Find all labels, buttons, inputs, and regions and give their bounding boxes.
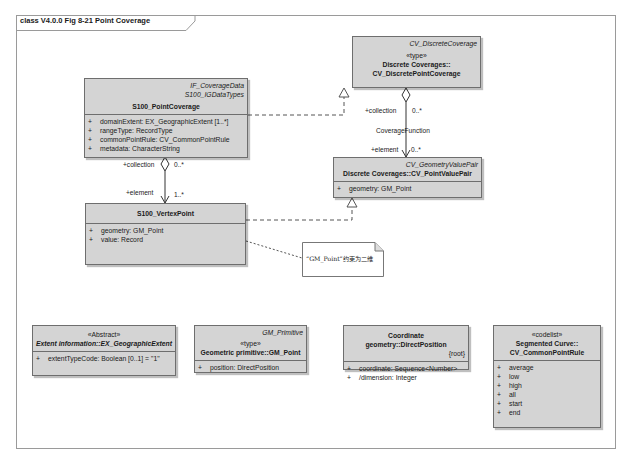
- role-collection: +collection: [365, 107, 396, 114]
- stereotype: «codelist»: [497, 330, 597, 339]
- attribute-list: +geometry: GM_Point: [334, 182, 481, 195]
- class-name-line2: CV_CommonPointRule: [497, 348, 597, 357]
- enum-literal: +start: [497, 399, 597, 408]
- multiplicity-collection: 0..*: [412, 107, 422, 114]
- class-name: Coordinate geometry::DirectPosition: [347, 331, 465, 349]
- stereotype: «Abstract»: [36, 330, 172, 339]
- class-cv-discrete-point-coverage[interactable]: CV_DiscreteCoverage «type» Discrete Cove…: [352, 36, 481, 88]
- attribute: +coordinate: Sequence<Number>: [347, 364, 465, 373]
- enum-literal: +low: [497, 372, 597, 381]
- attribute: +geometry: GM_Point: [89, 226, 242, 235]
- stereotype: «type»: [198, 339, 303, 348]
- class-name-line1: Segmented Curve::: [497, 339, 597, 348]
- attribute: +extentTypeCode: Boolean [0..1] = "1": [36, 354, 172, 363]
- multiplicity-element: 1..*: [174, 191, 184, 198]
- attribute-list: +average +low +high +all +start +end: [494, 361, 600, 419]
- class-name-line2: CV_DiscretePointCoverage: [356, 69, 477, 78]
- attribute-list: +position: DirectPosition: [195, 361, 306, 374]
- attribute: +/dimension: Integer: [347, 373, 465, 382]
- attribute-list: +domainExtent: EX_GeographicExtent [1..*…: [85, 115, 247, 155]
- class-s100-vertex-point[interactable]: S100_VertexPoint +geometry: GM_Point +va…: [85, 203, 246, 265]
- class-name: S100_PointCoverage: [88, 102, 244, 111]
- class-tag: {root}: [347, 349, 465, 358]
- class-gm-point[interactable]: GM_Primitive «type» Geometric primitive:…: [194, 325, 307, 373]
- class-direct-position[interactable]: Coordinate geometry::DirectPosition {roo…: [343, 325, 469, 370]
- parent-name-1: IF_CoverageData: [88, 81, 244, 90]
- attribute: +metadata: CharacterString: [88, 144, 244, 153]
- attribute-list: +extentTypeCode: Boolean [0..1] = "1": [33, 352, 175, 365]
- attribute-list: +geometry: GM_Point +value: Record: [86, 224, 245, 246]
- class-cv-common-point-rule[interactable]: «codelist» Segmented Curve:: CV_CommonPo…: [493, 325, 601, 428]
- enum-literal: +end: [497, 408, 597, 417]
- attribute: +commonPointRule: CV_CommonPointRule: [88, 135, 244, 144]
- association-name: CoverageFunction: [376, 127, 430, 134]
- class-name: Geometric primitive::GM_Point: [198, 348, 303, 357]
- class-name: S100_VertexPoint: [89, 209, 242, 218]
- attribute-list: +coordinate: Sequence<Number> +/dimensio…: [344, 362, 468, 384]
- multiplicity-element: 0..*: [411, 146, 421, 153]
- parent-name: GM_Primitive: [198, 328, 303, 337]
- role-element: +element: [371, 146, 398, 153]
- attribute: +domainExtent: EX_GeographicExtent [1..*…: [88, 117, 244, 126]
- enum-literal: +all: [497, 390, 597, 399]
- note-text: “GM_Point”约束为二维: [306, 254, 373, 263]
- stereotype: «type»: [356, 51, 477, 60]
- enum-literal: +average: [497, 363, 597, 372]
- class-name-line1: Discrete Coverages::: [356, 60, 477, 69]
- enum-literal: +high: [497, 381, 597, 390]
- attribute: +geometry: GM_Point: [337, 184, 478, 193]
- attribute: +rangeType: RecordType: [88, 126, 244, 135]
- role-collection: +collection: [123, 161, 154, 168]
- class-cv-point-value-pair[interactable]: CV_GeometryValuePair Discrete Coverages:…: [333, 157, 482, 198]
- note[interactable]: “GM_Point”约束为二维: [302, 242, 383, 276]
- class-name: Extent information::EX_GeographicExtent: [36, 339, 172, 348]
- parent-name: CV_GeometryValuePair: [337, 160, 478, 169]
- role-element: +element: [126, 189, 153, 196]
- class-ex-geographic-extent[interactable]: «Abstract» Extent information::EX_Geogra…: [32, 325, 176, 376]
- class-name: Discrete Coverages::CV_PointValuePair: [337, 169, 478, 178]
- attribute: +value: Record: [89, 235, 242, 244]
- parent-name: CV_DiscreteCoverage: [356, 39, 477, 48]
- class-s100-point-coverage[interactable]: IF_CoverageData S100_IGDataTypes S100_Po…: [84, 78, 248, 158]
- attribute: +position: DirectPosition: [198, 363, 303, 372]
- multiplicity-collection: 0..*: [174, 161, 184, 168]
- parent-name-2: S100_IGDataTypes: [88, 90, 244, 99]
